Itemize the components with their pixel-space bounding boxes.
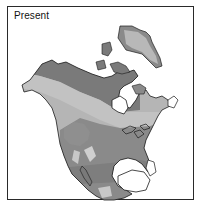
florida — [146, 160, 156, 176]
gulf-of-mexico — [118, 170, 150, 192]
greenland — [118, 26, 162, 68]
north-america-map — [0, 0, 201, 204]
map-title: Present — [14, 10, 49, 21]
newfoundland — [168, 96, 178, 108]
